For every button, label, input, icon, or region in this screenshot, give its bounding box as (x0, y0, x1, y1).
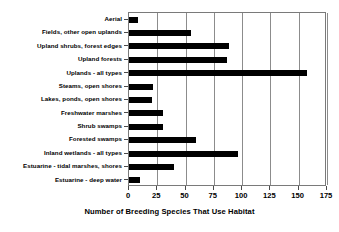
x-tick-mark (269, 186, 270, 190)
x-tick-mark (128, 186, 129, 190)
y-tick-mark (124, 99, 128, 100)
bar (129, 151, 238, 157)
category-axis-labels: AerialFields, other open uplandsUpland s… (0, 12, 125, 186)
gridline (214, 13, 215, 185)
gridline (270, 13, 271, 185)
plot-area (128, 12, 326, 186)
bar-chart-figure: AerialFields, other open uplandsUpland s… (0, 0, 339, 232)
category-label: Estuarine - tidal marshes, shores (23, 159, 122, 172)
gridline (242, 13, 243, 185)
category-label: Steams, open shores (59, 79, 122, 92)
x-tick-label: 25 (141, 191, 171, 200)
category-label: Freshwater marshes (61, 106, 122, 119)
x-tick-label: 0 (113, 191, 143, 200)
x-tick-mark (326, 186, 327, 190)
x-tick-mark (298, 186, 299, 190)
gridline (327, 13, 328, 185)
x-tick-label: 100 (226, 191, 256, 200)
y-tick-mark (124, 86, 128, 87)
bar (129, 57, 227, 63)
category-label: Shrub swamps (77, 119, 122, 132)
y-tick-mark (124, 166, 128, 167)
y-tick-mark (124, 112, 128, 113)
x-tick-mark (156, 186, 157, 190)
y-tick-mark (124, 153, 128, 154)
gridline (186, 13, 187, 185)
bar (129, 43, 229, 49)
bar (129, 84, 153, 90)
x-tick-mark (185, 186, 186, 190)
gridline (299, 13, 300, 185)
x-tick-label: 75 (198, 191, 228, 200)
x-tick-mark (241, 186, 242, 190)
category-label: Fields, other open uplands (42, 25, 122, 38)
bar (129, 137, 196, 143)
category-label: Lakes, ponds, open shores (41, 92, 122, 105)
y-tick-mark (124, 32, 128, 33)
x-tick-label: 50 (170, 191, 200, 200)
x-tick-label: 150 (283, 191, 313, 200)
bar (129, 97, 152, 103)
category-label: Inland wetlands - all types (44, 146, 122, 159)
category-label: Forested swamps (69, 132, 122, 145)
bar (129, 177, 140, 183)
bar (129, 110, 163, 116)
bar (129, 17, 138, 23)
bar (129, 124, 163, 130)
x-tick-label: 175 (311, 191, 339, 200)
category-label: Estuarine - deep water (55, 173, 122, 186)
bar (129, 70, 307, 76)
x-tick-label: 125 (254, 191, 284, 200)
y-tick-mark (124, 59, 128, 60)
category-label: Aerial (105, 12, 123, 25)
y-tick-mark (124, 45, 128, 46)
bar (129, 164, 174, 170)
y-tick-mark (124, 126, 128, 127)
y-tick-mark (124, 179, 128, 180)
gridline (157, 13, 158, 185)
category-label: Upland shrubs, forest edges (37, 39, 122, 52)
bar (129, 30, 191, 36)
y-tick-mark (124, 72, 128, 73)
y-tick-mark (124, 19, 128, 20)
y-tick-mark (124, 139, 128, 140)
category-label: Uplands - all types (66, 66, 122, 79)
category-label: Upland forests (78, 52, 122, 65)
x-axis-title: Number of Breeding Species That Use Habi… (0, 207, 339, 216)
x-tick-mark (213, 186, 214, 190)
